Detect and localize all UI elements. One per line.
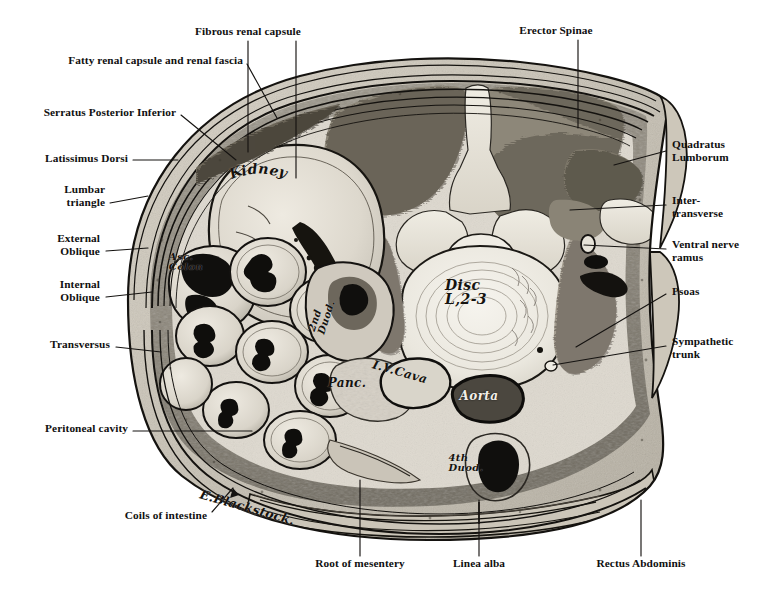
handwritten-panc: Panc. <box>328 377 367 389</box>
label-inter-transverse: Inter- transverse <box>672 194 723 220</box>
handwritten-aorta: Aorta <box>460 390 499 402</box>
label-psoas: Psoas <box>672 285 700 298</box>
handwritten-disc-l2-3: Disc L,2-3 <box>445 278 487 307</box>
label-ventral-nerve-ramus: Ventral nerve ramus <box>672 238 739 264</box>
label-fibrous-renal-capsule: Fibrous renal capsule <box>108 25 388 38</box>
label-rectus-abdominis: Rectus Abdominis <box>501 557 757 570</box>
label-latissimus-dorsi: Latissimus Dorsi <box>0 152 128 165</box>
label-transversus: Transversus <box>0 338 110 351</box>
label-serratus-post-inf: Serratus Posterior Inferior <box>0 106 176 119</box>
label-coils-of-intestine: Coils of intestine <box>0 509 207 522</box>
label-quadratus-lumborum: Quadratus Lumborum <box>672 138 729 164</box>
label-internal-oblique: Internal Oblique <box>0 278 100 304</box>
label-lumbar-triangle: Lumbar triangle <box>0 183 105 209</box>
anatomical-plate: Fibrous renal capsuleErector SpinaeFatty… <box>0 0 757 599</box>
label-erector-spinae: Erector Spinae <box>416 24 696 37</box>
label-peritoneal-cavity: Peritoneal cavity <box>0 422 128 435</box>
handwritten-asc-colon: Asc. Colon <box>169 252 203 272</box>
right-flank-flap-lower <box>650 252 679 398</box>
leader-lumbar-triangle <box>110 196 148 203</box>
handwritten-4th-duod: 4th Duod. <box>448 453 483 473</box>
label-fatty-renal-capsule: Fatty renal capsule and renal fascia <box>0 54 243 67</box>
label-external-oblique: External Oblique <box>0 232 100 258</box>
body-cross-section <box>110 40 690 560</box>
handwritten-kidney: Kidney <box>227 161 290 175</box>
label-sympathetic-trunk: Sympathetic trunk <box>672 335 733 361</box>
